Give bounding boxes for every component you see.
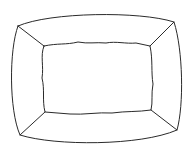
outer-edge [11, 15, 181, 143]
corner-line-bl [20, 112, 45, 135]
corner-line-tl [18, 26, 44, 46]
corner-line-tr [150, 22, 174, 46]
inner-panel [42, 42, 153, 114]
cushion-outline-icon [0, 0, 190, 151]
cushion-drawing [0, 0, 190, 151]
corner-line-br [151, 110, 177, 130]
